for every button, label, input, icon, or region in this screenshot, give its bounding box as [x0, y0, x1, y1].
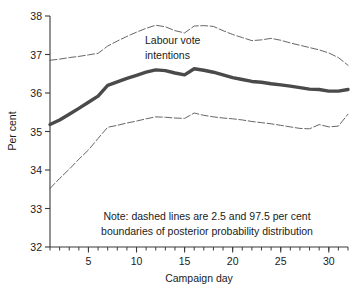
y-tick-label: 36	[30, 87, 42, 99]
x-axis-title: Campaign day	[165, 272, 233, 284]
x-axis-tick-labels: 51015202530	[86, 255, 335, 267]
series-line-2	[50, 113, 348, 188]
y-axis-ticks	[45, 16, 50, 247]
y-tick-label: 34	[30, 164, 42, 176]
series-line-1	[50, 69, 348, 125]
note-line1: Note: dashed lines are 2.5 and 97.5 per …	[103, 210, 310, 222]
y-tick-label: 37	[30, 49, 42, 61]
x-tick-label: 15	[179, 255, 191, 267]
x-tick-label: 30	[323, 255, 335, 267]
chart-figure: 32333435363738 51015202530 Per cent Camp…	[0, 0, 362, 294]
x-axis-major-ticks	[88, 247, 328, 253]
x-tick-label: 10	[131, 255, 143, 267]
series-annotation-line1: Labour vote	[145, 34, 201, 46]
x-tick-label: 20	[227, 255, 239, 267]
y-tick-label: 35	[30, 126, 42, 138]
x-tick-label: 25	[275, 255, 287, 267]
y-axis-tick-labels: 32333435363738	[30, 10, 42, 253]
y-tick-label: 32	[30, 241, 42, 253]
series-annotation-line2: intentions	[145, 49, 190, 61]
y-axis-title: Per cent	[6, 111, 18, 150]
note-line2: boundaries of posterior probability dist…	[101, 225, 313, 237]
y-tick-label: 38	[30, 10, 42, 22]
x-tick-label: 5	[86, 255, 92, 267]
y-tick-label: 33	[30, 203, 42, 215]
line-chart: 32333435363738 51015202530 Per cent Camp…	[0, 0, 362, 294]
data-series-group	[50, 25, 348, 188]
